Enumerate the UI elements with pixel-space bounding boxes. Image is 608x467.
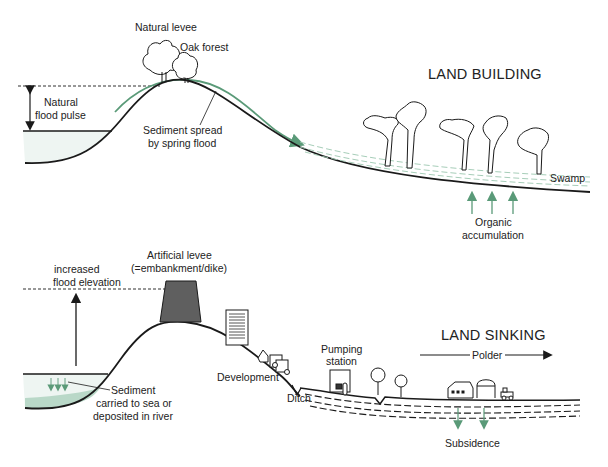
artificial-levee-label-1: Artificial levee: [147, 249, 212, 261]
sediment-bottom-label-1: Sediment: [111, 384, 155, 396]
flood-elevation-label-2: flood elevation: [53, 276, 121, 288]
sediment-label-2: by spring flood: [148, 137, 216, 149]
flood-pulse-label-1: Natural: [44, 96, 78, 108]
ditch-label: Ditch: [287, 392, 311, 404]
flood-elevation-label-1: increased: [54, 263, 100, 275]
building-icon: [226, 310, 248, 345]
organic-label-1: Organic: [475, 216, 512, 228]
organic-label-2: accumulation: [462, 229, 524, 241]
pumping-station-icon: [330, 370, 350, 395]
swamp-label: Swamp: [550, 172, 585, 184]
polder-label: Polder: [472, 349, 502, 361]
farm-icon: [448, 380, 495, 398]
pumping-station-label-1: Pumping: [321, 343, 362, 355]
natural-levee-label: Natural levee: [135, 21, 197, 33]
tractor-icon: [501, 388, 513, 400]
sediment-label-1: Sediment spread: [143, 124, 222, 136]
land-sinking-title: LAND SINKING: [441, 327, 546, 343]
flood-pulse-label-2: flood pulse: [35, 109, 86, 121]
oak-forest-label: Oak forest: [180, 41, 228, 53]
pumping-station-label-2: station: [326, 355, 357, 367]
trees-icon: [371, 368, 407, 397]
subsidence-label: Subsidence: [445, 437, 500, 449]
artificial-levee-label-2: (=embankment/dike): [131, 262, 227, 274]
ground-profile-top: [25, 80, 590, 192]
artificial-levee-icon: [160, 281, 201, 322]
organic-arrows: [472, 196, 513, 214]
sediment-leader: [200, 91, 216, 125]
development-label: Development: [217, 371, 279, 383]
swamp-tree-icon: [364, 102, 549, 174]
land-building-title: LAND BUILDING: [428, 66, 542, 82]
sediment-bottom-label-3: deposited in river: [93, 410, 173, 422]
sediment-bottom-label-2: carried to sea or: [96, 397, 172, 409]
peat-layers: [305, 394, 580, 418]
subsidence-arrows: [458, 408, 484, 425]
